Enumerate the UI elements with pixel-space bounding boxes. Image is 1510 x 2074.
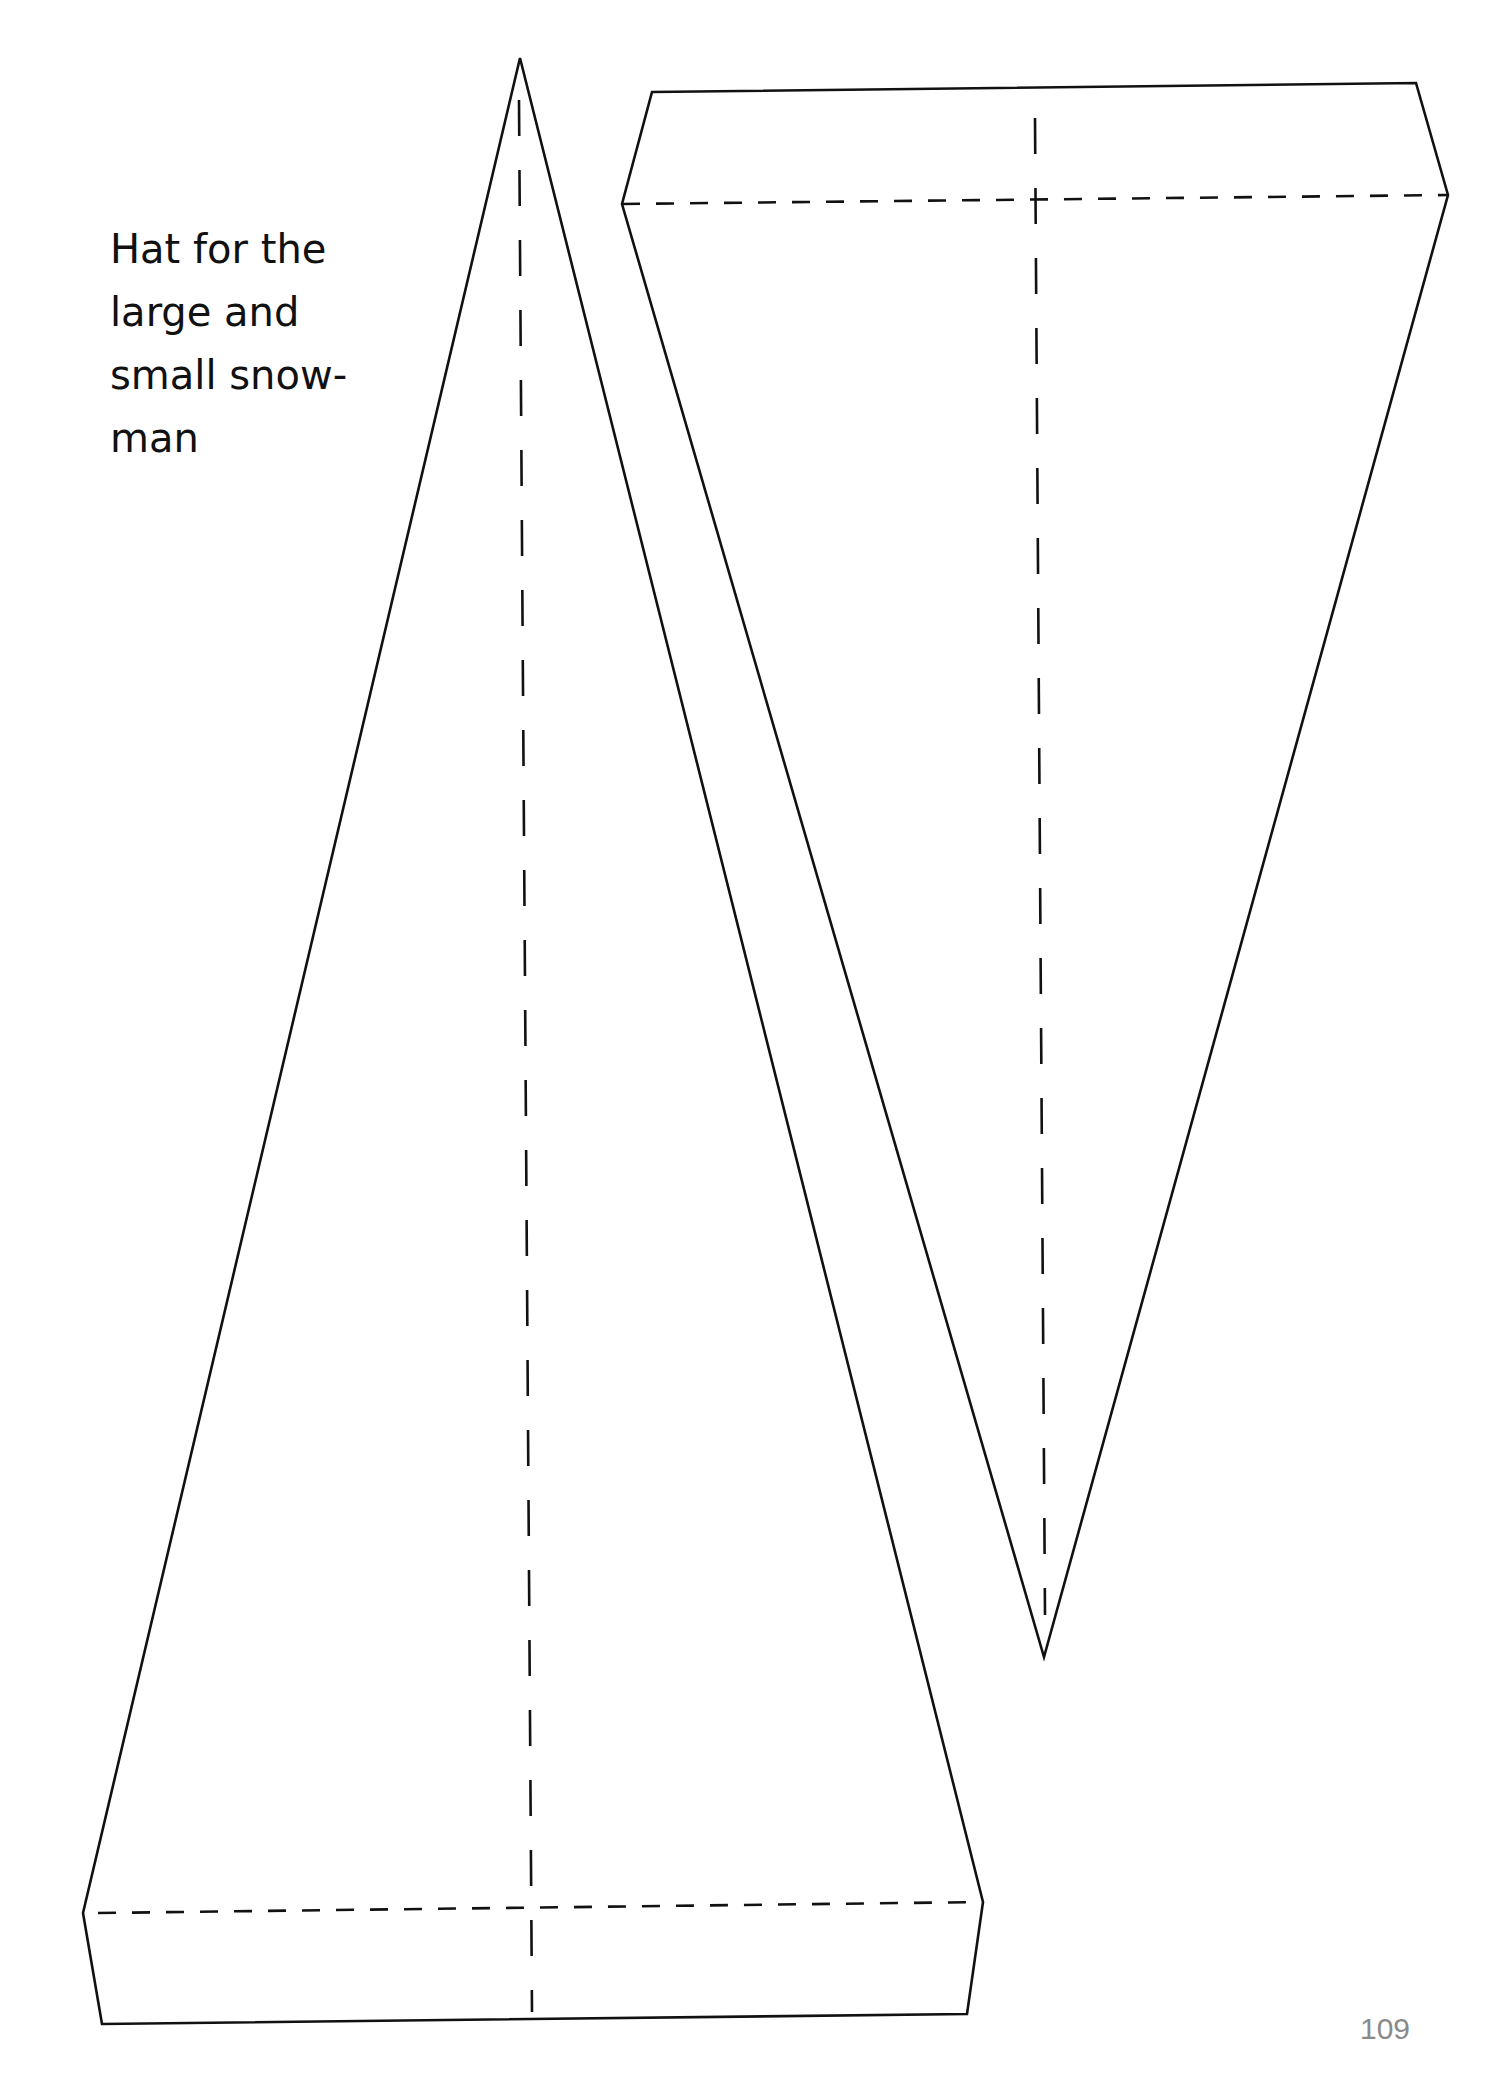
large-hat-template xyxy=(83,58,983,2024)
hat-templates-drawing xyxy=(0,0,1510,2074)
small-hat-cut-line xyxy=(622,83,1448,1657)
small-hat-fold-line-vertical xyxy=(1035,118,1045,1615)
page-number: 109 xyxy=(1360,2012,1410,2046)
large-hat-fold-line-horizontal xyxy=(98,1902,983,1913)
large-hat-cut-line xyxy=(83,58,983,2024)
small-hat-template xyxy=(622,83,1448,1657)
large-hat-fold-line-vertical xyxy=(519,100,532,2012)
craft-page: Hat for the large and small snow- man 10… xyxy=(0,0,1510,2074)
